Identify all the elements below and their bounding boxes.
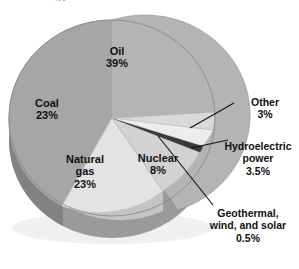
pie-top-face bbox=[9, 15, 251, 216]
callout-other-percent: 3% bbox=[236, 108, 294, 120]
callout-hydroelectric-power: Hydroelectric power 3.5% bbox=[218, 140, 298, 177]
callout-hydro-line2: power bbox=[218, 152, 298, 164]
callout-geothermal-wind-solar: Geothermal, wind, and solar 0.5% bbox=[198, 207, 298, 244]
callout-other-line1: Other bbox=[236, 96, 294, 108]
pie-chart-figure: gy bbox=[0, 0, 299, 269]
slice-coal[interactable] bbox=[10, 20, 112, 118]
pie-graphic: Oil 39% Coal 23% Natural gas 23% Nuclear… bbox=[0, 0, 299, 269]
callout-geothermal-percent: 0.5% bbox=[198, 232, 298, 244]
callout-geothermal-line1: Geothermal, bbox=[198, 207, 298, 219]
callout-hydro-line1: Hydroelectric bbox=[218, 140, 298, 152]
callout-other: Other 3% bbox=[236, 96, 294, 121]
callout-geothermal-line2: wind, and solar bbox=[198, 219, 298, 231]
callout-hydro-percent: 3.5% bbox=[218, 165, 298, 177]
